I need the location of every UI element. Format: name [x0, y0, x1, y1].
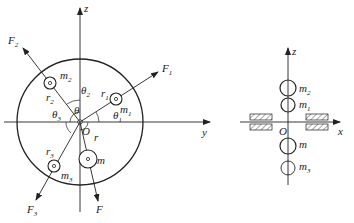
bearing-right-top	[306, 114, 328, 120]
side-m1-label: m1	[299, 98, 310, 113]
f-label: F	[95, 203, 103, 215]
y-label: y	[201, 126, 207, 138]
bearing-left-top	[250, 114, 272, 120]
bearing-left-bottom	[250, 124, 272, 130]
side-view: z x O m2 m1 m m3	[240, 45, 343, 185]
left-view: z y O F1 F2 F3 F m1 m2 m3 m r1 r2 r3 r θ…	[4, 2, 210, 218]
bearing-right-bottom	[306, 124, 328, 130]
theta3-arc	[66, 122, 71, 133]
balancing-diagram: z y O F1 F2 F3 F m1 m2 m3 m r1 r2 r3 r θ…	[0, 0, 354, 223]
side-m2-label: m2	[299, 82, 311, 97]
r-label: r	[94, 131, 99, 143]
r1-label: r1	[101, 87, 109, 102]
m3-label: m3	[61, 169, 73, 184]
theta2-label: θ2	[81, 84, 90, 99]
x-label: x	[337, 125, 343, 137]
m2-label: m2	[60, 69, 72, 84]
f3-label: F3	[26, 203, 38, 218]
r2-label: r2	[46, 91, 54, 106]
m-label: m	[97, 154, 105, 166]
z-label-side: z	[291, 45, 297, 57]
theta1-arc	[96, 112, 99, 122]
side-m-label: m	[299, 138, 307, 150]
theta3-label: θ3	[52, 108, 61, 123]
r3-label: r3	[46, 145, 54, 160]
origin-label: O	[82, 125, 90, 137]
side-m3-label: m3	[299, 160, 311, 175]
theta-label: θ	[74, 104, 80, 116]
f2-label: F2	[7, 34, 19, 49]
z-label: z	[83, 2, 89, 14]
f1-label: F1	[161, 62, 172, 77]
origin-label-side: O	[279, 125, 287, 137]
